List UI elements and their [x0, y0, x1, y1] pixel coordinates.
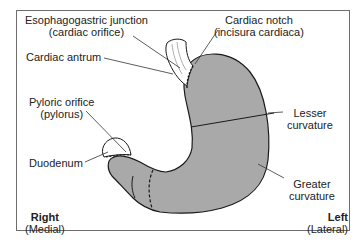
label-esophagogastric-junction-line2: (cardiac orifice) — [25, 26, 148, 38]
label-duodenum: Duodenum — [29, 157, 83, 169]
label-cardiac-notch: Cardiac notch (incisura cardiaca) — [214, 14, 304, 38]
label-greater-curvature-line2: curvature — [289, 190, 335, 202]
label-greater-curvature: Greater curvature — [289, 178, 335, 202]
label-pyloric-orifice: Pyloric orifice (pylorus) — [29, 96, 94, 120]
label-lesser-curvature-line2: curvature — [287, 119, 333, 131]
label-lesser-curvature: Lesser curvature — [287, 107, 333, 131]
label-left-lateral: Left (Lateral) — [307, 211, 348, 235]
label-medial: (Medial) — [25, 223, 65, 235]
label-left: Left — [307, 211, 348, 223]
label-lesser-curvature-line1: Lesser — [287, 107, 333, 119]
label-cardiac-notch-line1: Cardiac notch — [214, 14, 304, 26]
label-lateral: (Lateral) — [307, 223, 348, 235]
label-cardiac-notch-line2: (incisura cardiaca) — [214, 26, 304, 38]
label-cardiac-antrum: Cardiac antrum — [26, 51, 101, 63]
label-esophagogastric-junction: Esophagogastric junction (cardiac orific… — [25, 14, 148, 38]
label-cardiac-antrum-line1: Cardiac antrum — [26, 51, 101, 63]
label-pyloric-orifice-line1: Pyloric orifice — [29, 96, 94, 108]
label-duodenum-line1: Duodenum — [29, 157, 83, 169]
label-greater-curvature-line1: Greater — [289, 178, 335, 190]
label-esophagogastric-junction-line1: Esophagogastric junction — [25, 14, 148, 26]
label-right-medial: Right (Medial) — [25, 211, 65, 235]
duodenum-cap — [102, 138, 131, 157]
label-pyloric-orifice-line2: (pylorus) — [29, 108, 94, 120]
label-right: Right — [25, 211, 65, 223]
